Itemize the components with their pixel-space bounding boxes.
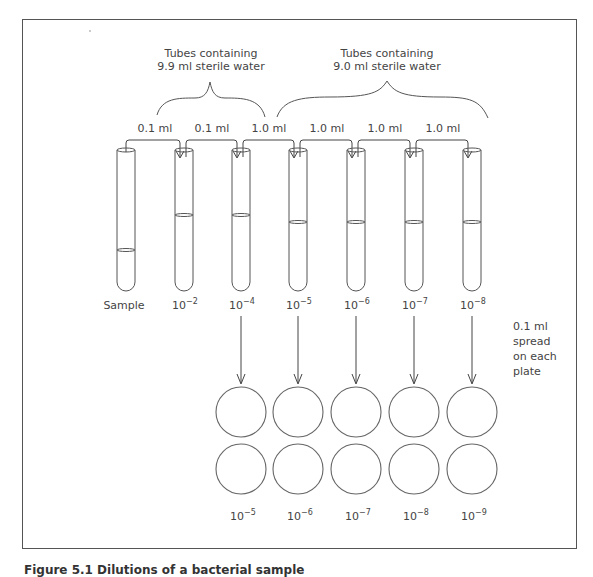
plate-dilution-label: 10−8 xyxy=(403,510,429,523)
plate-dilution-label: 10−5 xyxy=(230,510,256,523)
group-label-right-line2: 9.0 ml sterile water xyxy=(333,60,440,73)
tube-1e-6 xyxy=(347,148,365,291)
group-label-9-9ml: Tubes containing 9.9 ml sterile water xyxy=(157,47,264,73)
tubes xyxy=(117,148,481,291)
group-label-left-line1: Tubes containing xyxy=(157,47,264,60)
tube-1e-5 xyxy=(289,148,307,291)
tube-label: 10−6 xyxy=(344,299,370,312)
plating-note-line: plate xyxy=(513,364,557,379)
plate-dilution-label: 10−7 xyxy=(345,510,371,523)
transfer-volume: 1.0 ml xyxy=(368,122,403,135)
tube-1e-4 xyxy=(232,148,250,291)
figure-caption: Figure 5.1 Dilutions of a bacterial samp… xyxy=(24,563,304,577)
transfer-volume: 0.1 ml xyxy=(195,122,230,135)
group-label-9-0ml: Tubes containing 9.0 ml sterile water xyxy=(333,47,440,73)
brace-left xyxy=(157,82,265,117)
tube-label: 10−4 xyxy=(229,299,255,312)
plate-dilution-label: 10−9 xyxy=(461,510,487,523)
group-label-right-line1: Tubes containing xyxy=(333,47,440,60)
tube-label: 10−8 xyxy=(460,299,486,312)
transfer-volume: 1.0 ml xyxy=(426,122,461,135)
plating-note-line: spread xyxy=(513,334,557,349)
plating-arrows xyxy=(237,316,476,384)
plates xyxy=(216,387,497,494)
tube-label-sample: Sample xyxy=(103,299,144,312)
tube-label: 10−2 xyxy=(172,299,198,312)
plate-dilution-label: 10−6 xyxy=(287,510,313,523)
transfer-volume: 1.0 ml xyxy=(310,122,345,135)
tube-1e-2 xyxy=(175,148,193,291)
plating-note-line: 0.1 ml xyxy=(513,319,557,334)
plating-note-line: on each xyxy=(513,349,557,364)
brace-right xyxy=(277,81,488,118)
tube-1e-7 xyxy=(405,148,423,291)
transfer-volume: 0.1 ml xyxy=(138,122,173,135)
tube-sample xyxy=(117,148,135,291)
tube-label: 10−5 xyxy=(286,299,312,312)
plating-note: 0.1 ml spread on each plate xyxy=(513,319,557,379)
transfer-volume: 1.0 ml xyxy=(252,122,287,135)
tube-1e-8 xyxy=(463,148,481,291)
tube-label: 10−7 xyxy=(402,299,428,312)
group-label-left-line2: 9.9 ml sterile water xyxy=(157,60,264,73)
